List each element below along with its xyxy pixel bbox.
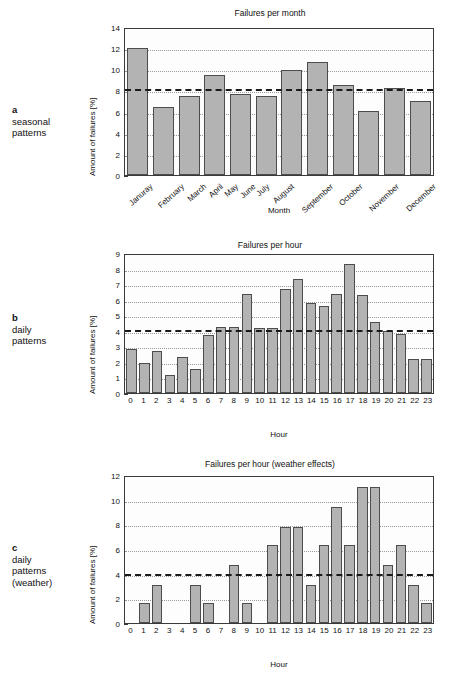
bar (153, 107, 174, 175)
x-tick-slot: 6 (202, 626, 215, 635)
x-tick-label: 12 (281, 396, 290, 405)
x-tick-slot: 8 (227, 396, 240, 405)
bar (152, 585, 163, 623)
panel-c-caption-line-2: patterns (12, 565, 46, 576)
x-tick-slot: 0 (124, 396, 137, 405)
bar-slot (292, 477, 305, 623)
x-tick-label: 23 (423, 396, 432, 405)
bar-slot (138, 255, 151, 393)
x-tick-slot: 22 (408, 396, 421, 405)
panel-a-y-tick-12: 12 (98, 45, 120, 54)
bar-slot (394, 255, 407, 393)
bar-slot (382, 477, 395, 623)
bar-slot (394, 477, 407, 623)
x-tick-label: April (207, 182, 225, 199)
bar-slot (420, 255, 433, 393)
panel-b-x-tick-labels: 01234567891011121314151617181920212223 (124, 396, 434, 405)
x-tick-slot: 1 (137, 626, 150, 635)
x-tick-slot: 2 (150, 396, 163, 405)
x-tick-label: 4 (180, 396, 184, 405)
bar-slot (215, 477, 228, 623)
x-tick-label: 12 (281, 626, 290, 635)
panel-c-chart-title: Failures per hour (weather effects) (100, 459, 440, 469)
bar-slot (266, 477, 279, 623)
bar-slot (125, 29, 151, 175)
bar (203, 603, 214, 623)
bar-slot (266, 255, 279, 393)
panel-b-bars (125, 255, 433, 393)
panel-a-y-tick-8: 8 (98, 87, 120, 96)
panel-a-y-tick-14: 14 (98, 24, 120, 33)
panel-a-y-tick-4: 4 (98, 129, 120, 138)
x-tick-slot: 16 (331, 626, 344, 635)
x-tick-label: 20 (384, 396, 393, 405)
x-tick-label: 21 (397, 396, 406, 405)
bar (229, 327, 240, 393)
bar (267, 545, 278, 623)
bar (126, 349, 137, 393)
bar (383, 331, 394, 393)
x-tick-label: 3 (167, 396, 171, 405)
panel-a-y-tick-6: 6 (98, 108, 120, 117)
x-tick-slot: 5 (189, 396, 202, 405)
bar-slot (176, 29, 202, 175)
x-tick-slot: 23 (421, 396, 434, 405)
bar-slot (317, 255, 330, 393)
panel-b-caption: b daily patterns (12, 312, 82, 347)
x-tick-label: 2 (154, 626, 158, 635)
panel-c-bars (125, 477, 433, 623)
x-tick-label: 1 (141, 396, 145, 405)
x-tick-slot: 14 (305, 396, 318, 405)
x-tick-label: 23 (423, 626, 432, 635)
x-tick-label: 0 (128, 396, 132, 405)
x-tick-label: 17 (346, 626, 355, 635)
x-tick-slot: 11 (266, 626, 279, 635)
panel-b: b daily patterns Failures per hour Amoun… (0, 232, 453, 454)
bar (408, 585, 419, 623)
bar (179, 96, 200, 175)
x-tick-label: 22 (410, 396, 419, 405)
x-tick-slot: November (362, 182, 399, 191)
bar (242, 603, 253, 623)
panel-b-chart-title: Failures per hour (100, 240, 440, 250)
panel-c-y-tick-8: 8 (98, 521, 120, 530)
bar-slot (369, 255, 382, 393)
x-tick-slot: 3 (163, 396, 176, 405)
x-tick-slot: May (223, 182, 238, 191)
x-tick-label: 18 (359, 396, 368, 405)
bar (165, 375, 176, 393)
x-tick-slot: 4 (176, 626, 189, 635)
bar-slot (125, 255, 138, 393)
bar-slot (292, 255, 305, 393)
panel-b-ylabel: Amount of failures [%] (88, 316, 97, 394)
bar (410, 101, 431, 175)
x-tick-label: 19 (372, 396, 381, 405)
panel-a-y-tick-10: 10 (98, 66, 120, 75)
x-tick-label: 20 (384, 626, 393, 635)
panel-a-x-tick-labels: JanurayFebruaryMarchAprilMayJuneJulyAugu… (124, 182, 434, 191)
bar (421, 359, 432, 393)
x-tick-label: August (272, 182, 297, 205)
x-tick-label: 19 (372, 626, 381, 635)
bar-slot (189, 255, 202, 393)
bar (230, 94, 251, 175)
bar-slot (343, 255, 356, 393)
panel-c-y-tick-2: 2 (98, 595, 120, 604)
panel-b-caption-line-2: patterns (12, 335, 46, 346)
x-tick-slot: 18 (357, 396, 370, 405)
bar-slot (253, 477, 266, 623)
x-tick-slot: October (334, 182, 362, 191)
panel-a: a seasonal patterns Failures per month A… (0, 0, 453, 232)
panel-c-y-tick-4: 4 (98, 570, 120, 579)
panel-a-tag: a (12, 104, 82, 116)
bar (127, 48, 148, 175)
x-tick-label: 17 (346, 396, 355, 405)
x-tick-slot: August (269, 182, 294, 191)
bar-slot (240, 477, 253, 623)
x-tick-slot: 18 (357, 626, 370, 635)
panel-b-y-tick-3: 3 (98, 343, 120, 352)
x-tick-slot: 1 (137, 396, 150, 405)
bar (152, 351, 163, 393)
x-tick-label: 15 (320, 626, 329, 635)
x-tick-label: 18 (359, 626, 368, 635)
